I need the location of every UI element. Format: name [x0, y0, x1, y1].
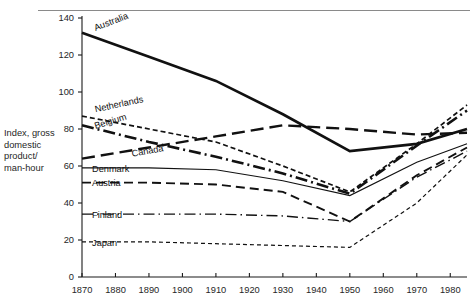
- y-tick-label: 140: [58, 13, 74, 23]
- series-line-japan: [82, 155, 467, 248]
- line-chart-plot: 020406080100120140 187018801890190019101…: [0, 0, 473, 307]
- y-axis-tick-group: 020406080100120140: [58, 13, 82, 282]
- x-tick-label: 1890: [139, 285, 160, 295]
- series-label-group: AustraliaNetherlandsBelgiumCanadaDenmark…: [92, 10, 165, 247]
- y-tick-label: 120: [58, 50, 74, 60]
- x-tick-label: 1970: [406, 285, 427, 295]
- series-label-austria: Austria: [92, 178, 121, 188]
- y-tick-label: 100: [58, 87, 74, 97]
- x-tick-label: 1920: [239, 285, 260, 295]
- series-label-denmark: Denmark: [92, 164, 130, 174]
- y-tick-label: 60: [64, 161, 74, 171]
- x-tick-label: 1980: [440, 285, 461, 295]
- y-tick-label: 20: [64, 235, 74, 245]
- x-axis-tick-group: 1870188018901900191019201930194019501960…: [72, 273, 461, 295]
- series-line-finland: [82, 151, 467, 221]
- x-tick-label: 1930: [273, 285, 294, 295]
- x-tick-label: 1960: [373, 285, 394, 295]
- x-tick-label: 1900: [172, 285, 193, 295]
- series-label-finland: Finland: [92, 210, 122, 220]
- y-tick-label: 0: [69, 272, 74, 282]
- data-series-group: [82, 33, 467, 248]
- series-label-netherlands: Netherlands: [94, 94, 145, 114]
- series-label-australia: Australia: [93, 10, 131, 32]
- x-tick-label: 1870: [72, 285, 93, 295]
- x-tick-label: 1880: [105, 285, 126, 295]
- y-tick-label: 80: [64, 124, 74, 134]
- series-label-belgium: Belgium: [93, 112, 128, 131]
- x-tick-label: 1940: [306, 285, 327, 295]
- x-tick-label: 1950: [339, 285, 360, 295]
- series-label-japan: Japan: [92, 238, 117, 248]
- chart-figure: Index, gross domestic product/ man-hour …: [0, 0, 473, 307]
- x-tick-label: 1910: [206, 285, 227, 295]
- y-tick-label: 40: [64, 198, 74, 208]
- series-line-austria: [82, 148, 467, 222]
- series-label-canada: Canada: [131, 143, 165, 159]
